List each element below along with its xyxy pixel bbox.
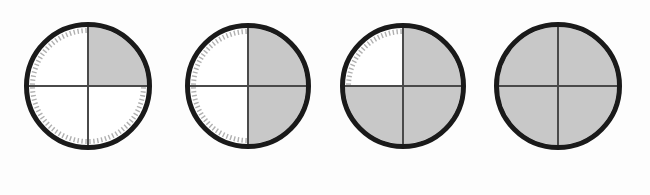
quadrant-top-right xyxy=(403,28,461,86)
tick-mark xyxy=(78,29,79,34)
quadrant-bottom-left xyxy=(345,86,403,144)
tick-mark xyxy=(242,29,243,34)
quadrant-bottom-right xyxy=(248,86,306,144)
quadrant-top-left xyxy=(499,27,558,86)
tick-mark xyxy=(238,30,239,35)
dial-1 xyxy=(27,25,150,148)
tick-mark xyxy=(347,76,352,77)
dial-3 xyxy=(343,26,464,147)
tick-mark xyxy=(238,137,239,142)
tick-mark xyxy=(191,80,196,81)
dial-4 xyxy=(497,25,620,148)
tick-mark xyxy=(192,76,197,77)
tick-mark xyxy=(397,29,398,34)
quadrant-top-right xyxy=(558,27,617,86)
tick-mark xyxy=(191,92,196,93)
quadrant-top-right xyxy=(88,27,147,86)
quadrant-bottom-right xyxy=(558,86,617,145)
dial-group xyxy=(0,0,650,195)
tick-mark xyxy=(192,95,197,96)
dials-layer xyxy=(27,25,620,148)
tick-mark xyxy=(82,139,83,144)
tick-mark xyxy=(78,138,79,143)
tick-mark xyxy=(30,92,35,93)
tick-mark xyxy=(30,80,35,81)
quadrant-dials-svg xyxy=(0,0,650,195)
tick-mark xyxy=(393,30,394,35)
tick-mark xyxy=(140,95,145,96)
figure-root xyxy=(0,0,650,195)
tick-mark xyxy=(31,76,36,77)
tick-mark xyxy=(94,139,95,144)
quadrant-top-right xyxy=(248,28,306,86)
tick-mark xyxy=(97,138,98,143)
tick-mark xyxy=(141,92,146,93)
tick-mark xyxy=(242,138,243,143)
tick-mark xyxy=(31,95,36,96)
tick-mark xyxy=(82,28,83,33)
quadrant-bottom-right xyxy=(403,86,461,144)
quadrant-bottom-left xyxy=(499,86,558,145)
dial-2 xyxy=(188,26,309,147)
tick-mark xyxy=(346,80,351,81)
